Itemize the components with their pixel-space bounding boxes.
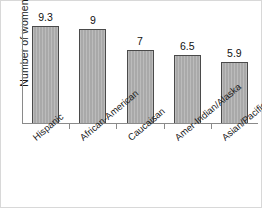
x-axis-tick [69, 124, 70, 129]
x-axis-tick [116, 124, 117, 129]
bar-3[interactable]: 7 [127, 17, 154, 123]
bar-value-label: 9.3 [22, 11, 69, 23]
bar-4[interactable]: 6.5 [174, 17, 201, 123]
x-axis-tick [211, 124, 212, 129]
bar-value-label: 7 [117, 35, 164, 47]
bar-value-label: 5.9 [211, 47, 258, 59]
x-axis-tick [164, 124, 165, 129]
plot-area: 9.3976.55.9 [22, 17, 258, 123]
bar-5[interactable]: 5.9 [221, 17, 248, 123]
bar-rect[interactable] [32, 26, 59, 123]
bar-chart-figure: Number of women 9.3976.55.9 HispanicAfri… [0, 0, 262, 208]
bar-2[interactable]: 9 [79, 17, 106, 123]
bar-rect[interactable] [127, 50, 154, 123]
bar-value-label: 9 [69, 14, 116, 26]
bar-rect[interactable] [79, 29, 106, 123]
bar-1[interactable]: 9.3 [32, 17, 59, 123]
bar-value-label: 6.5 [164, 40, 211, 52]
